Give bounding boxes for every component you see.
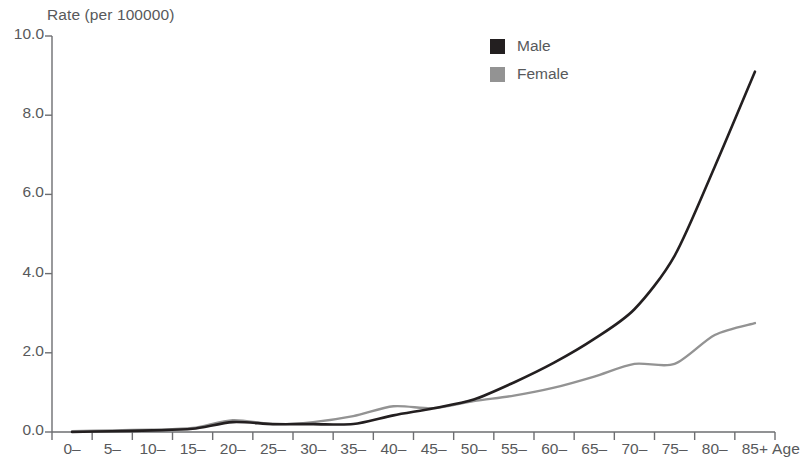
y-tick-label: 0.0 xyxy=(0,421,44,439)
x-tick-label: 75– xyxy=(652,440,698,458)
legend-item-male[interactable]: Male xyxy=(490,32,569,60)
x-tick-label: 30– xyxy=(290,440,336,458)
x-tick-label: 85+ xyxy=(732,440,778,458)
x-tick-label: 70– xyxy=(611,440,657,458)
legend-label: Male xyxy=(517,37,551,55)
y-tick-label: 8.0 xyxy=(0,104,44,122)
legend-swatch-male xyxy=(490,39,505,54)
chart-figure: Rate (per 100000) 0.02.04.06.08.010.0 0–… xyxy=(0,0,806,466)
x-axis-ticks xyxy=(52,432,775,440)
x-axis-title: Age xyxy=(772,440,800,458)
plot-area xyxy=(0,0,806,466)
y-tick-label: 10.0 xyxy=(0,25,44,43)
y-axis-ticks xyxy=(45,36,52,432)
x-tick-label: 0– xyxy=(49,440,95,458)
x-tick-label: 50– xyxy=(451,440,497,458)
legend-swatch-female xyxy=(490,67,505,82)
y-tick-label: 2.0 xyxy=(0,342,44,360)
x-tick-label: 20– xyxy=(210,440,256,458)
x-tick-label: 65– xyxy=(571,440,617,458)
x-tick-label: 45– xyxy=(411,440,457,458)
x-tick-label: 40– xyxy=(370,440,416,458)
x-tick-label: 10– xyxy=(129,440,175,458)
chart-legend: MaleFemale xyxy=(490,32,569,88)
y-tick-label: 6.0 xyxy=(0,183,44,201)
y-tick-label: 4.0 xyxy=(0,263,44,281)
series-line-female xyxy=(72,323,755,431)
axis-lines xyxy=(52,36,775,432)
x-tick-label: 80– xyxy=(692,440,738,458)
x-tick-label: 5– xyxy=(89,440,135,458)
x-tick-label: 25– xyxy=(250,440,296,458)
x-tick-label: 35– xyxy=(330,440,376,458)
x-tick-label: 15– xyxy=(170,440,216,458)
legend-label: Female xyxy=(517,65,569,83)
data-series-lines xyxy=(72,72,755,432)
series-line-male xyxy=(72,72,755,432)
legend-item-female[interactable]: Female xyxy=(490,60,569,88)
x-tick-label: 55– xyxy=(491,440,537,458)
x-tick-label: 60– xyxy=(531,440,577,458)
